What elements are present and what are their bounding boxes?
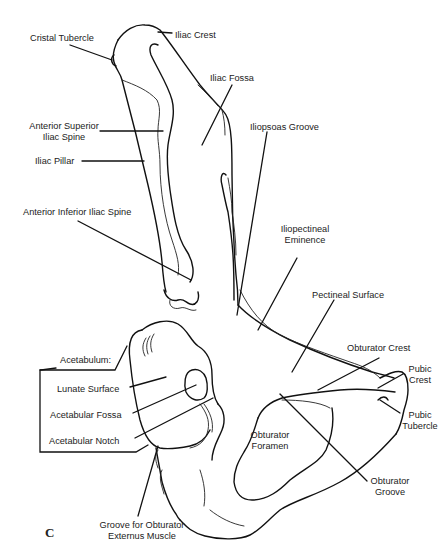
label-pubic-tubercle-line2: Tubercle	[395, 421, 445, 432]
superior-pubic-ramus-upper	[238, 305, 394, 378]
leader-acetabular-fossa	[133, 385, 196, 413]
pubic-tubercle-curl	[378, 397, 388, 400]
hip-bone-diagram: Cristal Tubercle Iliac Crest Iliac Fossa…	[0, 0, 445, 559]
label-asis: Anterior Superior Iliac Spine	[24, 121, 104, 143]
acetabular-notch-line	[190, 404, 209, 448]
label-obturator-crest: Obturator Crest	[347, 343, 410, 354]
label-pubic-tubercle-line1: Pubic	[395, 410, 445, 421]
leader-iliopectineal	[258, 258, 297, 330]
label-groove-obturator-externus: Groove for Obturator Externus Muscle	[92, 520, 192, 542]
acetabulum-rim	[129, 330, 210, 449]
label-groove-obturator-externus-line2: Externus Muscle	[92, 531, 192, 542]
label-iliopectineal-eminence: Iliopectineal Eminence	[270, 224, 340, 246]
ilium-posterior-edge	[113, 40, 166, 292]
acetabulum-shading	[143, 334, 154, 356]
label-obturator-groove: Obturator Groove	[360, 476, 420, 498]
leader-groove-obturator-externus	[138, 446, 158, 516]
leader-acetabular-notch	[135, 398, 213, 438]
label-obturator-foramen: Obturator Foramen	[240, 430, 300, 452]
obturator-foramen	[234, 408, 333, 500]
acetabulum-anterior-wall	[212, 404, 224, 460]
leader-iliopsoas-groove	[237, 132, 267, 315]
leader-pectineal-surface	[292, 300, 334, 372]
leader-lunate-surface	[130, 377, 166, 387]
label-lunate-surface: Lunate Surface	[57, 384, 119, 395]
label-obturator-foramen-line1: Obturator	[240, 430, 300, 441]
label-aiis: Anterior Inferior Iliac Spine	[23, 207, 131, 218]
pectineal-line	[240, 290, 380, 378]
label-acetabulum: Acetabulum:	[60, 355, 111, 366]
label-cristal-tubercle: Cristal Tubercle	[30, 33, 94, 44]
label-iliopectineal-line1: Iliopectineal	[270, 224, 340, 235]
obturator-foramen-upper	[258, 389, 395, 418]
label-iliac-crest: Iliac Crest	[175, 30, 216, 41]
leader-aiis	[78, 221, 191, 280]
panel-letter: C	[45, 525, 54, 541]
ischium-posterior	[156, 448, 180, 520]
label-obturator-foramen-line2: Foramen	[240, 441, 300, 452]
iliac-pillar-ridge	[122, 80, 179, 275]
leader-iliac-crest	[158, 32, 172, 33]
iliac-fossa-ridge	[198, 85, 218, 106]
label-obturator-groove-line2: Groove	[360, 487, 420, 498]
label-acetabular-fossa: Acetabular Fossa	[50, 410, 122, 421]
label-iliac-pillar: Iliac Pillar	[35, 156, 74, 167]
label-groove-obturator-externus-line1: Groove for Obturator	[92, 520, 192, 531]
label-pectineal-surface: Pectineal Surface	[312, 290, 384, 301]
label-iliopectineal-line2: Eminence	[270, 235, 340, 246]
label-pubic-crest: Pubic Crest	[400, 364, 440, 386]
label-pubic-tubercle: Pubic Tubercle	[395, 410, 445, 432]
leader-cristal-tubercle	[70, 45, 112, 60]
ischial-tuberosity-detail	[200, 470, 244, 526]
label-iliac-fossa: Iliac Fossa	[210, 73, 254, 84]
iliac-crest-inner-lip	[150, 44, 193, 282]
leader-obturator-crest	[318, 358, 379, 390]
label-asis-line2: Iliac Spine	[24, 132, 104, 143]
label-pubic-crest-line2: Crest	[400, 375, 440, 386]
label-asis-line1: Anterior Superior	[24, 121, 104, 132]
label-pubic-crest-line1: Pubic	[400, 364, 440, 375]
label-acetabular-notch: Acetabular Notch	[49, 436, 119, 447]
leader-iliac-fossa	[202, 85, 232, 145]
label-obturator-groove-line1: Obturator	[360, 476, 420, 487]
label-iliopsoas-groove: Iliopsoas Groove	[250, 122, 319, 133]
aiis-detail	[170, 300, 196, 310]
